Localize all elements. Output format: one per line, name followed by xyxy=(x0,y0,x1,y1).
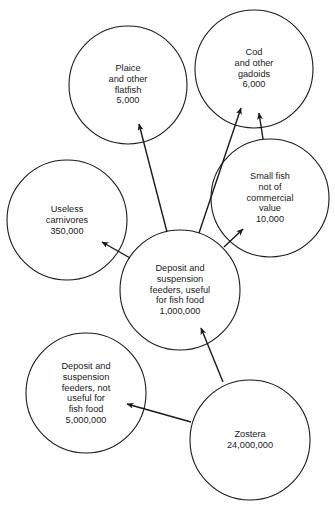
node-label-line: commercial xyxy=(247,193,294,204)
node-label-line: Useless xyxy=(46,204,88,215)
node-label-line: Cod xyxy=(235,47,274,58)
node-label-line: 5,000,000 xyxy=(61,415,110,426)
node-label-line: 5,000 xyxy=(109,96,148,107)
node-label-line: feeders, useful xyxy=(150,285,210,296)
node-label-line: Deposit and xyxy=(150,263,210,274)
node-label-line: and other xyxy=(109,74,148,85)
node-label-line: suspension xyxy=(150,274,210,285)
node-label-cod: Codand othergadoids6,000 xyxy=(235,47,274,90)
node-label-line: and other xyxy=(235,58,274,69)
node-label-line: 10,000 xyxy=(247,214,294,225)
arrow-feeders-useful-to-plaice xyxy=(139,124,167,232)
node-label-zostera: Zostera24,000,000 xyxy=(227,429,273,451)
node-label-small-fish: Small fishnot ofcommercialvalue10,000 xyxy=(247,171,294,225)
node-label-line: 1,000,000 xyxy=(150,306,210,317)
node-label-line: carnivores xyxy=(46,215,88,226)
node-label-plaice: Plaiceand otherflatfish5,000 xyxy=(109,63,148,106)
node-label-line: Deposit and xyxy=(61,361,110,372)
node-label-line: feeders, not xyxy=(61,382,110,393)
food-web-diagram xyxy=(0,0,335,505)
node-label-line: 24,000,000 xyxy=(227,440,273,451)
node-label-line: suspension xyxy=(61,371,110,382)
node-label-line: 350,000 xyxy=(46,225,88,236)
node-label-feeders-useful: Deposit andsuspensionfeeders, usefulfor … xyxy=(150,263,210,317)
node-label-useless-carnivores: Uselesscarnivores350,000 xyxy=(46,204,88,236)
node-label-line: not of xyxy=(247,182,294,193)
arrow-zostera-to-feeders-useful xyxy=(201,328,223,382)
node-label-feeders-not-useful: Deposit andsuspensionfeeders, notuseful … xyxy=(61,361,110,426)
arrow-zostera-to-feeders-not-useful xyxy=(127,404,191,422)
node-label-line: gadoids xyxy=(235,69,274,80)
node-label-line: 6,000 xyxy=(235,80,274,91)
node-label-line: Zostera xyxy=(227,429,273,440)
node-label-line: fish food xyxy=(61,404,110,415)
arrow-feeders-useful-to-useless-carnivores xyxy=(102,242,130,258)
node-label-line: for fish food xyxy=(150,295,210,306)
node-label-line: useful for xyxy=(61,393,110,404)
arrow-feeders-useful-to-cod xyxy=(199,108,241,233)
node-label-line: value xyxy=(247,203,294,214)
node-label-line: flatfish xyxy=(109,85,148,96)
arrow-small-fish-to-cod xyxy=(259,113,263,139)
node-label-line: Small fish xyxy=(247,171,294,182)
node-label-line: Plaice xyxy=(109,63,148,74)
